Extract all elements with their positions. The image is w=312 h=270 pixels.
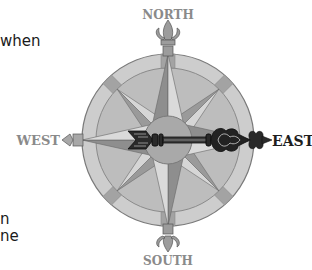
label-west: WEST [15, 133, 60, 148]
west-fleur-de-lis-icon [62, 134, 83, 146]
label-south: SOUTH [143, 254, 193, 268]
south-fleur-de-lis-icon [157, 224, 180, 252]
label-north: NORTH [142, 8, 193, 22]
compass-rose-diagram: NORTH SOUTH WEST EAST [0, 0, 312, 270]
east-fleur-de-lis-icon [249, 131, 272, 148]
north-fleur-de-lis-icon [156, 20, 180, 56]
label-east: EAST [272, 133, 312, 149]
